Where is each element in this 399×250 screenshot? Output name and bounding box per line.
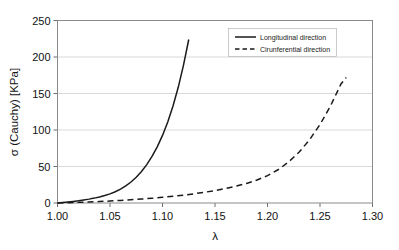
legend-label-0: Longitudinal direction	[260, 34, 326, 42]
x-tick-label: 1.00	[47, 210, 68, 222]
y-tick-label: 100	[32, 124, 50, 136]
x-tick-label: 1.20	[257, 210, 278, 222]
y-tick-label: 200	[32, 51, 50, 63]
stress-stretch-chart: 050100150200250 1.001.051.101.151.201.25…	[0, 0, 399, 250]
y-tick-label: 50	[38, 161, 50, 173]
y-tick-label: 0	[44, 197, 50, 209]
x-axis-title: λ	[212, 230, 218, 242]
y-axis-title: σ (Cauchy) [KPa]	[8, 68, 20, 156]
y-tick-label: 250	[32, 15, 50, 27]
x-tick-label: 1.15	[204, 210, 225, 222]
x-tick-label: 1.25	[309, 210, 330, 222]
y-tick-label: 150	[32, 88, 50, 100]
x-tick-label: 1.30	[362, 210, 383, 222]
x-tick-label: 1.10	[152, 210, 173, 222]
legend: Longitudinal directionCirunferential dir…	[229, 29, 337, 57]
x-tick-label: 1.05	[99, 210, 120, 222]
legend-label-1: Cirunferential direction	[260, 46, 330, 53]
chart-container: 050100150200250 1.001.051.101.151.201.25…	[0, 0, 399, 250]
